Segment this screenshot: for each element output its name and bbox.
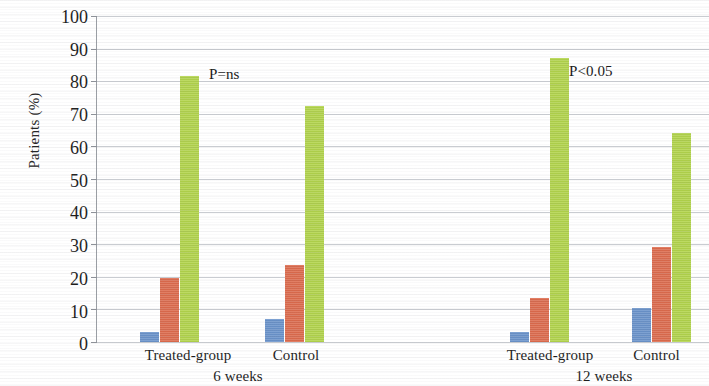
tickmark-20: [91, 277, 97, 278]
tickmark-0: [91, 342, 97, 343]
y-tick-label-40: 40: [42, 204, 88, 222]
tickmark-30: [91, 244, 97, 245]
tickmark-40: [91, 212, 97, 213]
bar-g1-s3: [305, 106, 324, 342]
bar-g0-s1: [140, 332, 159, 342]
bar-g2-s3: [550, 58, 569, 342]
y-tick-label-20: 20: [42, 270, 88, 288]
bar-g0-s2: [160, 278, 179, 342]
y-axis-title: Patients (%): [26, 71, 43, 191]
tickmark-50: [91, 179, 97, 180]
bar-g3-s2: [652, 247, 671, 342]
gridline-0: [96, 342, 709, 343]
bar-g1-s1: [265, 319, 284, 342]
tickmark-70: [91, 114, 97, 115]
category-label-control-12w: Control: [604, 347, 709, 364]
bar-g2-s2: [530, 298, 549, 342]
y-tick-label-70: 70: [42, 106, 88, 124]
gridline-90: [96, 49, 709, 50]
bar-g3-s1: [632, 308, 651, 342]
y-tick-label-30: 30: [42, 237, 88, 255]
group-label-6-weeks: 6 weeks: [158, 368, 318, 385]
bar-g0-s3: [180, 76, 199, 342]
y-axis-tick-labels: 100 90 80 70 60 50 40 30 20 10 0: [42, 0, 88, 386]
annotation-p-ns: P=ns: [209, 66, 240, 83]
y-tick-label-0: 0: [42, 335, 88, 353]
y-tick-label-100: 100: [42, 8, 88, 26]
bar-g3-s3: [672, 133, 691, 342]
tickmark-60: [91, 146, 97, 147]
tickmark-100: [91, 16, 97, 17]
annotation-p-0-05: P<0.05: [569, 63, 613, 80]
bar-g2-s1: [510, 332, 529, 342]
tickmark-90: [91, 49, 97, 50]
y-tick-label-80: 80: [42, 73, 88, 91]
y-tick-label-10: 10: [42, 303, 88, 321]
group-label-12-weeks: 12 weeks: [524, 368, 684, 385]
y-tick-label-60: 60: [42, 139, 88, 157]
tickmark-80: [91, 81, 97, 82]
tickmark-10: [91, 309, 97, 310]
y-tick-label-50: 50: [42, 172, 88, 190]
gridline-100: [96, 16, 709, 17]
plot-area: P=ns P<0.05: [96, 16, 709, 343]
y-tick-label-90: 90: [42, 41, 88, 59]
bar-chart: Patients (%) 100 90 80 70 60 50 40 30 20…: [0, 0, 709, 386]
bar-g1-s2: [285, 265, 304, 342]
category-label-control-6w: Control: [238, 347, 354, 364]
